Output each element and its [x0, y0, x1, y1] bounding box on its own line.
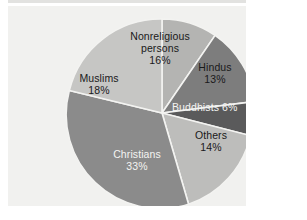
slice-label-hindus: Hindus 13% — [180, 62, 250, 86]
slice-label-hindus-line1: Hindus — [180, 62, 250, 74]
slice-label-muslims-line1: Muslims — [60, 73, 138, 85]
slice-label-nonreligious-persons: Nonreligious persons 16% — [112, 31, 208, 66]
slice-label-others: Others 14% — [176, 130, 246, 154]
panel-top-edge — [8, 0, 246, 3]
slice-value-hindus: 13% — [180, 74, 250, 86]
slice-value-muslims: 18% — [60, 85, 138, 97]
slice-label-christians: Christians 33% — [93, 149, 181, 173]
slice-label-buddhists: Buddhists 6% — [172, 102, 264, 114]
slice-label-nonreligious-persons-line2: persons — [112, 43, 208, 55]
slice-label-nonreligious-persons-line1: Nonreligious — [112, 31, 208, 43]
slice-value-christians: 33% — [93, 161, 181, 173]
slice-value-others: 14% — [176, 142, 246, 154]
slice-label-others-line1: Others — [176, 130, 246, 142]
slice-value-buddhists: 6% — [222, 101, 237, 113]
pie-chart-figure: Nonreligious persons 16% Hindus 13% Budd… — [0, 0, 307, 220]
slice-label-muslims: Muslims 18% — [60, 73, 138, 97]
chart-plot-area: Nonreligious persons 16% Hindus 13% Budd… — [8, 6, 246, 206]
slice-label-christians-line1: Christians — [93, 149, 181, 161]
slice-label-buddhists-line1: Buddhists — [172, 101, 219, 113]
